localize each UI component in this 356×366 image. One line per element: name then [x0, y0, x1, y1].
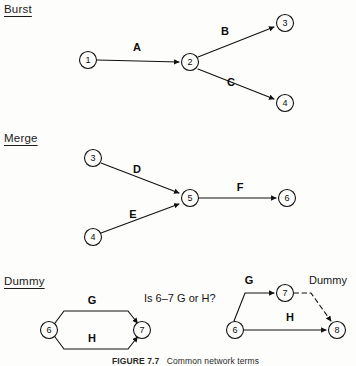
edge-label-dummyleft-H: H: [83, 332, 101, 344]
node-label-merge-5: 5: [181, 189, 199, 207]
node-label-merge-3: 3: [84, 149, 102, 167]
node-label-merge-6: 6: [278, 189, 296, 207]
figure-container: Burst Merge Dummy 1 2 3 4 A B C 3 4 5 6 …: [0, 0, 356, 366]
edge-dummyright-G: [234, 293, 274, 321]
edge-label-merge-E: E: [124, 208, 142, 220]
node-label-burst-3: 3: [276, 14, 294, 32]
node-label-merge-4: 4: [84, 228, 102, 246]
edge-label-dummyright-dummy: Dummy: [309, 274, 347, 286]
edge-label-burst-B: B: [216, 25, 234, 37]
node-label-burst-1: 1: [79, 51, 97, 69]
edge-label-merge-F: F: [231, 181, 249, 193]
node-label-dummyleft-6: 6: [40, 321, 58, 339]
question-text: Is 6–7 G or H?: [144, 292, 216, 304]
node-label-dummyright-8: 8: [328, 321, 346, 339]
edge-label-dummyright-H: H: [281, 311, 299, 323]
figure-caption-number: FIGURE 7.7: [112, 356, 159, 366]
edge-label-burst-A: A: [128, 41, 146, 53]
edge-label-dummyright-G: G: [240, 274, 258, 286]
section-label-merge: Merge: [4, 132, 38, 144]
section-label-burst: Burst: [4, 3, 32, 15]
edge-label-dummyleft-G: G: [83, 294, 101, 306]
node-label-dummyright-6: 6: [226, 321, 244, 339]
edge-label-merge-D: D: [128, 163, 146, 175]
edge-dummyright-dummy: [294, 293, 331, 321]
node-label-burst-2: 2: [181, 53, 199, 71]
edge-label-burst-C: C: [222, 76, 240, 88]
network-diagram-canvas: [0, 0, 356, 366]
node-label-burst-4: 4: [276, 94, 294, 112]
figure-caption-text: Common network terms: [167, 356, 259, 366]
figure-caption: FIGURE 7.7 Common network terms: [112, 356, 259, 366]
node-label-dummyright-7: 7: [276, 284, 294, 302]
section-label-dummy: Dummy: [4, 275, 45, 287]
edge-burst-B: [198, 27, 274, 57]
edge-burst-A: [97, 60, 179, 62]
edge-dummyleft-G: [55, 311, 138, 323]
node-label-dummyleft-7: 7: [133, 321, 151, 339]
